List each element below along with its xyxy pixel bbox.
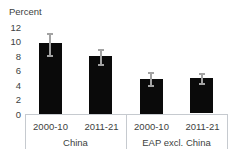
error-bar-bottom-cap (47, 55, 53, 57)
error-bar-bottom-cap (148, 85, 154, 87)
error-bar-line (100, 49, 102, 65)
category-bracket-line (25, 114, 26, 149)
y-axis-tick-label: 6 (0, 66, 21, 76)
plot-area: 0246810122000-102011-21China2000-102011-… (0, 0, 236, 155)
category-bracket-line (227, 114, 228, 149)
error-bar-bottom-cap (98, 64, 104, 66)
error-bar-top-cap (148, 72, 154, 74)
error-bar-top-cap (98, 49, 104, 51)
error-bar-line (49, 33, 51, 55)
x-axis-group-label: EAP excl. China (126, 137, 227, 148)
y-axis-tick-label: 4 (0, 81, 21, 91)
y-axis-tick-label: 8 (0, 52, 21, 62)
x-axis-category-label: 2000-10 (126, 121, 177, 132)
error-bar-top-cap (47, 33, 53, 35)
category-bracket-line (126, 114, 127, 149)
y-axis-tick-label: 0 (0, 110, 21, 120)
error-bar-line (150, 72, 152, 86)
x-axis-category-label: 2011-21 (76, 121, 127, 132)
x-axis-category-label: 2000-10 (25, 121, 76, 132)
y-axis-tick-label: 2 (0, 95, 21, 105)
error-bar-top-cap (199, 73, 205, 75)
bar-chart-figure: Percent 0246810122000-102011-21China2000… (0, 0, 236, 155)
error-bar-bottom-cap (199, 83, 205, 85)
bar (39, 43, 62, 114)
x-axis-group-label: China (25, 137, 126, 148)
y-axis-tick-label: 12 (0, 23, 21, 33)
y-axis-tick-label: 10 (0, 37, 21, 47)
x-axis-category-label: 2011-21 (177, 121, 228, 132)
